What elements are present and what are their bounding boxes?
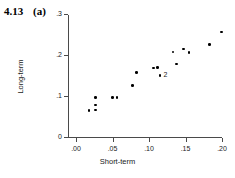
data-point [152,67,155,70]
x-tick-label: .20 [212,145,232,152]
data-point [175,63,178,66]
x-tick-label: .10 [139,145,159,152]
x-tick-mark [149,138,150,142]
data-point [156,66,159,69]
point-count-annotation: 2 [164,71,168,78]
y-tick-mark [64,96,68,97]
y-tick-label: .2 [46,51,62,58]
data-point [111,96,114,99]
data-point [172,51,175,54]
data-point [182,48,185,51]
x-tick-mark [76,138,77,142]
x-tick-mark [222,138,223,142]
data-point [88,109,91,112]
y-axis-title: Long-term [16,37,25,117]
data-point [188,51,191,54]
data-point [159,74,162,77]
x-tick-label: .15 [176,145,196,152]
data-point [94,109,97,112]
data-point [94,104,97,107]
data-point [220,31,223,34]
y-tick-label: .3 [46,10,62,17]
x-tick-mark [113,138,114,142]
x-tick-mark [186,138,187,142]
x-tick-label: .05 [103,145,123,152]
figure-panel: 4.13 (a) 0.1.2.3 .00.05.10.15.20 2 Short… [0,0,235,178]
data-point [131,84,134,87]
y-tick-label: 0 [46,133,62,140]
y-tick-label: .1 [46,92,62,99]
x-axis-title: Short-term [0,157,235,166]
y-tick-mark [64,137,68,138]
data-point [208,43,211,46]
y-tick-mark [64,14,68,15]
y-tick-mark [64,55,68,56]
x-axis-line [68,137,222,138]
data-point [116,96,119,99]
x-tick-label: .00 [66,145,86,152]
data-point [94,96,97,99]
y-axis-line [68,15,69,138]
scatter-plot: 0.1.2.3 .00.05.10.15.20 2 Short-term Lon… [0,0,235,178]
data-point [135,71,138,74]
